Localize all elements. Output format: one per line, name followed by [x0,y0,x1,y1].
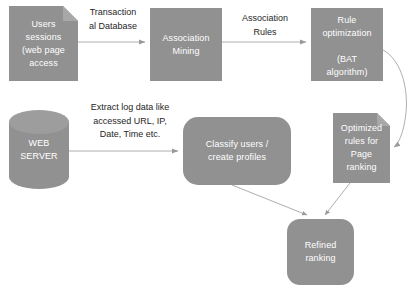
edge-label-association-rules: Association Rules [228,12,302,39]
diagram-canvas: Users sessions (web page access Associat… [0,0,413,290]
diagram-shapes-layer [0,0,413,290]
edge-optimized-to-refined [325,183,350,215]
node-rule-optimization [311,8,383,81]
edge-label-extract-log-data: Extract log data like accessed URL, IP, … [68,101,192,142]
node-optimized-rules-fold [377,113,390,126]
node-refined-ranking [287,219,354,285]
node-association-mining [150,8,222,81]
edge-label-transactional-database: Transaction al Database [76,6,150,33]
edge-classify-to-refined [232,185,307,215]
node-web-server-top [9,110,69,134]
node-classify-users [183,117,291,185]
